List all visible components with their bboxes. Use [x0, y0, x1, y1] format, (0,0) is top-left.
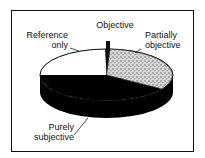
leader-purely [74, 118, 88, 135]
label-purely-subjective: Purely subjective [24, 123, 74, 142]
label-purely-line2: subjective [24, 133, 74, 143]
label-objective: Objective [92, 21, 138, 31]
label-partially-line2: objective [145, 41, 181, 51]
label-reference-only: Reference only [20, 31, 68, 50]
leader-reference [70, 48, 79, 51]
label-objective-text: Objective [96, 20, 134, 30]
label-reference-line2: only [20, 41, 68, 51]
label-partially-objective: Partially objective [145, 31, 181, 50]
slice-objective-wedge [106, 41, 110, 51]
